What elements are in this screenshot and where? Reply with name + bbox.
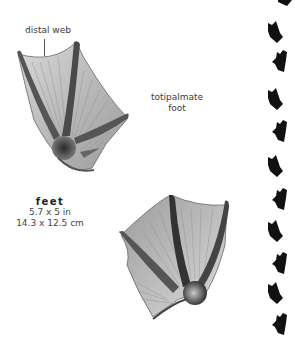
track-print-icon [267,220,283,242]
track-print-icon [272,50,288,72]
upper-foot-illustration [14,40,134,180]
foot-type-line1: totipalmate [142,92,212,103]
distal-web-label: distal web [25,25,71,36]
foot-type-label: totipalmate foot [142,92,212,114]
track-print-icon [267,282,283,304]
foot-type-line2: foot [142,103,212,114]
size-imperial: 5.7 x 5 in [10,207,90,218]
track-print-icon [272,188,288,210]
size-title: feet [10,196,90,207]
track-print-icon [272,252,288,274]
track-print-icon [276,0,292,6]
track-print-icon [267,21,283,43]
lower-foot-illustration [117,195,237,325]
track-print-icon [272,313,288,335]
track-print-icon [272,120,288,142]
track-print-icon [267,88,283,110]
size-metric: 14.3 x 12.5 cm [10,218,90,229]
size-info: feet 5.7 x 5 in 14.3 x 12.5 cm [10,196,90,229]
track-print-icon [267,155,283,177]
